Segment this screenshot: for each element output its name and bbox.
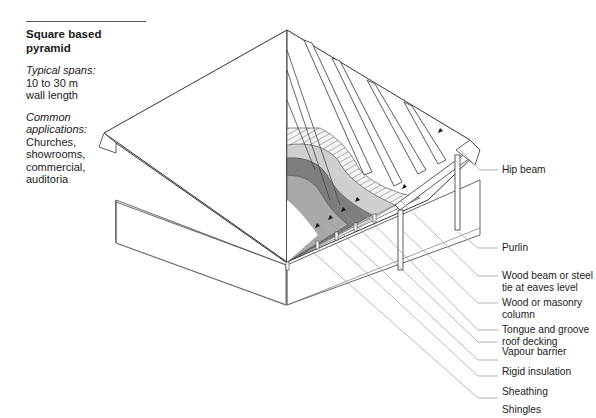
title-rule xyxy=(26,21,146,22)
callout-wood-beam: Wood beam or steel tie at eaves level xyxy=(502,270,593,293)
callout-vapour-barrier: Vapour barrier xyxy=(502,346,566,358)
callout-text: Vapour barrier xyxy=(502,346,566,358)
callout-text: Sheathing xyxy=(502,386,548,398)
spans-block: Typical spans: 10 to 30 m wall length xyxy=(26,64,146,102)
applications-line: commercial, xyxy=(26,161,146,174)
callout-text: column xyxy=(502,309,582,321)
applications-line: auditoria xyxy=(26,173,146,186)
callout-purlin: Purlin xyxy=(502,242,528,254)
callout-text: Wood beam or steel xyxy=(502,270,593,282)
callout-hip-beam: Hip beam xyxy=(502,164,546,176)
callout-text: Rigid insulation xyxy=(502,366,571,378)
applications-line: showrooms, xyxy=(26,148,146,161)
panel-title: Square based pyramid xyxy=(26,27,146,55)
callout-shingles: Shingles xyxy=(502,404,541,416)
callout-text: Shingles xyxy=(502,404,541,416)
callout-decking: Tongue and groove roof decking xyxy=(502,324,589,347)
spans-line: 10 to 30 m xyxy=(26,77,146,90)
column xyxy=(455,155,460,230)
applications-heading: applications: xyxy=(26,123,146,136)
callout-sheathing: Sheathing xyxy=(502,386,548,398)
callout-text: Hip beam xyxy=(502,164,546,176)
callout-column: Wood or masonry column xyxy=(502,297,582,320)
callout-text: tie at eaves level xyxy=(502,282,593,294)
info-panel: Square based pyramid Typical spans: 10 t… xyxy=(26,21,146,195)
callout-text: Wood or masonry xyxy=(502,297,582,309)
applications-heading: Common xyxy=(26,111,146,124)
spans-heading: Typical spans: xyxy=(26,64,146,77)
spans-line: wall length xyxy=(26,89,146,102)
callout-text: Purlin xyxy=(502,242,528,254)
callout-rigid-insulation: Rigid insulation xyxy=(502,366,571,378)
callout-text: Tongue and groove xyxy=(502,324,589,336)
applications-line: Churches, xyxy=(26,136,146,149)
applications-block: Common applications: Churches, showrooms… xyxy=(26,111,146,186)
